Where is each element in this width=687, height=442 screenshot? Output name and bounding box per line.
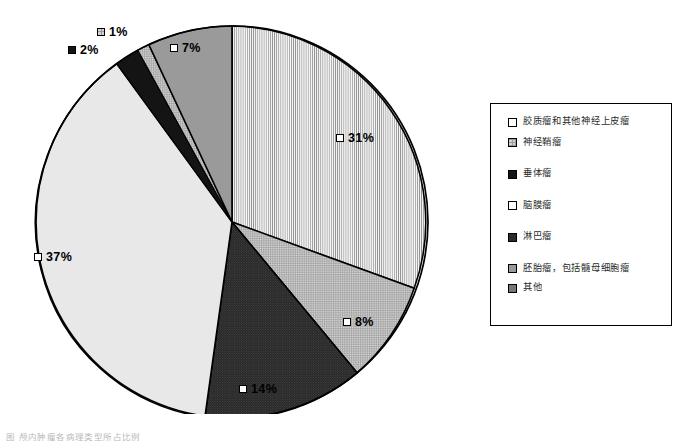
pie-label-text-8: 8%: [355, 315, 374, 329]
legend-label-lymphoma: 淋巴瘤: [523, 230, 552, 243]
pie-label-swatch-14: [239, 385, 247, 393]
pie-label-text-7: 7%: [182, 41, 201, 55]
pie-data-label-2: 2%: [68, 43, 99, 57]
pie-label-text-1: 1%: [109, 25, 128, 39]
pie-data-label-7: 7%: [170, 41, 201, 55]
pie-data-label-31: 31%: [336, 131, 374, 145]
pie-label-swatch-2: [68, 46, 76, 54]
pie-data-label-14: 14%: [239, 382, 277, 396]
legend-label-meningioma: 脑膜瘤: [523, 199, 552, 212]
legend-swatch-embryonal: [508, 264, 517, 273]
legend-item-meningioma[interactable]: 脑膜瘤: [508, 199, 665, 212]
legend-label-glioma: 胶质瘤和其他神经上皮瘤: [523, 115, 630, 128]
pie-chart: 31% 8% 14% 37% 2% 1% 7%: [18, 22, 450, 414]
legend-item-other[interactable]: 其他: [508, 281, 665, 294]
legend-label-schwannoma: 神经鞘瘤: [523, 136, 562, 149]
legend-swatch-meningioma: [508, 201, 517, 210]
legend-swatch-glioma: [508, 118, 517, 127]
legend-label-other: 其他: [523, 281, 542, 294]
pie-data-label-1: 1%: [97, 25, 128, 39]
legend-swatch-other: [508, 284, 517, 293]
pie-label-text-37: 37%: [46, 250, 72, 264]
pie-label-swatch-31: [336, 134, 344, 142]
legend-label-embryonal: 胚胎瘤，包括髓母细胞瘤: [523, 262, 630, 275]
legend-item-embryonal[interactable]: 胚胎瘤，包括髓母细胞瘤: [508, 262, 665, 275]
legend-item-glioma[interactable]: 胶质瘤和其他神经上皮瘤: [508, 115, 665, 128]
legend-swatch-lymphoma: [508, 233, 517, 242]
pie-label-swatch-7: [170, 44, 178, 52]
legend-item-lymphoma[interactable]: 淋巴瘤: [508, 230, 665, 243]
pie-label-text-2: 2%: [80, 43, 99, 57]
pie-data-label-8: 8%: [343, 315, 374, 329]
pie-label-text-14: 14%: [251, 382, 277, 396]
legend-item-pituitary[interactable]: 垂体瘤: [508, 167, 665, 180]
legend-swatch-pituitary: [508, 170, 517, 179]
pie-chart-svg: [18, 22, 450, 414]
pie-data-label-37: 37%: [34, 250, 72, 264]
pie-label-swatch-37: [34, 253, 42, 261]
legend-label-pituitary: 垂体瘤: [523, 167, 552, 180]
pie-label-text-31: 31%: [348, 131, 374, 145]
chart-canvas: 31% 8% 14% 37% 2% 1% 7%: [0, 0, 687, 442]
pie-label-swatch-1: [97, 28, 105, 36]
legend-swatch-schwannoma: [508, 138, 517, 147]
legend-item-schwannoma[interactable]: 神经鞘瘤: [508, 136, 665, 149]
pie-label-swatch-8: [343, 318, 351, 326]
figure-caption: 图 颅内肿瘤各病理类型所占比例: [6, 433, 646, 442]
chart-legend: 胶质瘤和其他神经上皮瘤 神经鞘瘤 垂体瘤 脑膜瘤 淋巴瘤 胚胎瘤，包括髓母细胞瘤: [490, 103, 672, 326]
